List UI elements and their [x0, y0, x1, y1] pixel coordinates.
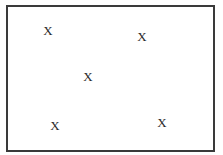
diagram-frame — [6, 5, 215, 152]
x-mark-1: X — [43, 24, 52, 37]
x-mark-4: X — [50, 119, 59, 132]
x-mark-5: X — [157, 116, 166, 129]
x-mark-2: X — [137, 30, 146, 43]
x-mark-3: X — [83, 70, 92, 83]
